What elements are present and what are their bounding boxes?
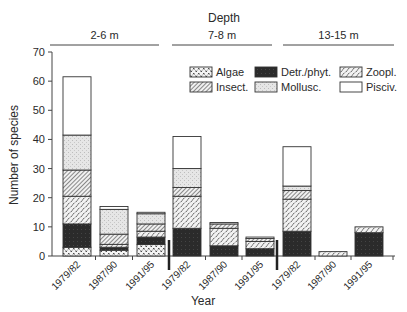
x-tick-label: 1991/95 [123, 258, 157, 292]
bar-segment-insect [173, 188, 201, 197]
stacked-bar-chart: Depth 2-6 m7-8 m13-15 m 010203040506070 … [0, 0, 407, 312]
bar-segment-zoopl [283, 199, 311, 231]
legend-label: Mollusc. [281, 81, 321, 93]
bar-stack [100, 206, 128, 256]
legend-label: Pisciv. [366, 81, 397, 93]
bar-segment-pisciv [283, 147, 311, 186]
bar-segment-pisciv [246, 237, 274, 238]
legend-swatch [255, 82, 277, 92]
bar-stack [63, 77, 91, 256]
bar-stack [137, 212, 165, 256]
x-tick-label: 1987/90 [305, 258, 339, 292]
y-tick-label: 30 [33, 163, 45, 175]
chart-title: Depth [208, 11, 240, 25]
x-tick-label: 1991/95 [232, 258, 266, 292]
depth-group-headers: 2-6 m7-8 m13-15 m [50, 29, 394, 45]
bar-segment-mollusc [100, 209, 128, 234]
bar-segment-mollusc [283, 186, 311, 190]
bar-segment-insect [210, 224, 238, 228]
bar-stack [355, 227, 383, 256]
bar-segment-insect [137, 224, 165, 231]
y-axis-label: Number of species [7, 105, 21, 205]
x-tick-label: 1987/90 [86, 258, 120, 292]
bar-segment-detrphyt [210, 246, 238, 256]
bar-segment-detrphyt [63, 224, 91, 247]
legend-label: Zoopl. [366, 66, 397, 78]
bar-segment-zoopl [173, 196, 201, 228]
bar-stack [319, 252, 347, 256]
bar-stack [246, 237, 274, 256]
bar-segment-zoopl [355, 227, 383, 233]
x-tick-label: 1979/82 [159, 258, 193, 292]
bar-segment-zoopl [246, 241, 274, 248]
legend: AlgaeDetr./phyt.Zoopl.Insect.Mollusc.Pis… [190, 66, 397, 93]
y-tick-label: 10 [33, 221, 45, 233]
x-tick-label: 1979/82 [269, 258, 303, 292]
bar-segment-algae [100, 250, 128, 256]
legend-swatch [340, 67, 362, 77]
bar-segment-insect [283, 190, 311, 199]
y-axis: 010203040506070 [33, 46, 52, 262]
y-tick-label: 70 [33, 46, 45, 58]
group-header-label: 2-6 m [90, 29, 118, 41]
y-tick-label: 40 [33, 133, 45, 145]
bar-segment-insect [100, 234, 128, 244]
legend-swatch [340, 82, 362, 92]
bar-segment-detrphyt [246, 249, 274, 256]
legend-label: Detr./phyt. [281, 66, 331, 78]
x-tick-label: 1979/82 [49, 258, 83, 292]
bar-segment-detrphyt [137, 237, 165, 244]
bar-stack [283, 147, 311, 256]
bar-stack [173, 137, 201, 256]
x-axis-ticks: 1979/821987/901991/951979/821987/901991/… [49, 256, 393, 292]
bars [63, 77, 383, 256]
legend-swatch [190, 82, 212, 92]
group-header-label: 13-15 m [318, 29, 358, 41]
y-tick-label: 50 [33, 104, 45, 116]
bar-segment-detrphyt [283, 231, 311, 256]
bar-segment-zoopl [63, 196, 91, 224]
bar-segment-mollusc [173, 169, 201, 188]
bar-segment-zoopl [319, 252, 347, 256]
bar-segment-pisciv [137, 212, 165, 213]
bar-segment-pisciv [63, 77, 91, 135]
x-tick-label: 1987/90 [196, 258, 230, 292]
legend-label: Algae [216, 66, 244, 78]
y-tick-label: 20 [33, 192, 45, 204]
legend-swatch [255, 67, 277, 77]
legend-swatch [190, 67, 212, 77]
x-axis-label: Year [191, 294, 215, 308]
bar-segment-pisciv [100, 206, 128, 209]
bar-segment-insect [63, 170, 91, 196]
bar-segment-detrphyt [173, 228, 201, 256]
y-tick-label: 0 [39, 250, 45, 262]
y-tick-label: 60 [33, 75, 45, 87]
bar-segment-pisciv [173, 137, 201, 169]
bar-segment-mollusc [63, 135, 91, 170]
bar-stack [210, 222, 238, 256]
bar-segment-algae [63, 247, 91, 256]
x-tick-label: 1991/95 [341, 258, 375, 292]
bar-segment-algae [137, 244, 165, 256]
bar-segment-pisciv [210, 222, 238, 223]
bar-segment-detrphyt [355, 233, 383, 256]
bar-segment-zoopl [137, 231, 165, 237]
group-header-label: 7-8 m [208, 29, 236, 41]
bar-segment-zoopl [210, 228, 238, 245]
legend-label: Insect. [216, 81, 248, 93]
bar-segment-mollusc [137, 214, 165, 224]
